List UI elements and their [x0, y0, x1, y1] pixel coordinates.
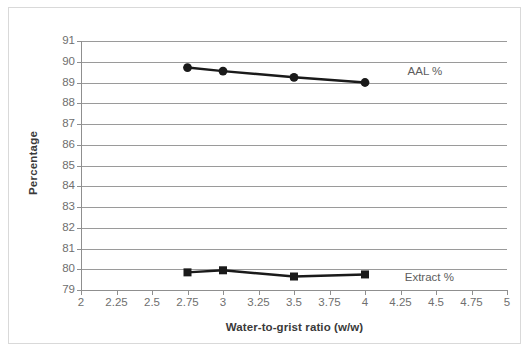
- data-point-marker: [219, 266, 227, 274]
- x-tick-mark: [294, 290, 295, 295]
- x-tick-mark: [259, 290, 260, 295]
- x-tick-mark: [152, 290, 153, 295]
- x-axis-title: Water-to-grist ratio (w/w): [81, 321, 508, 333]
- data-point-marker: [290, 273, 298, 281]
- x-axis-tick-labels: 22.252.52.7533.253.53.7544.254.54.755: [81, 297, 508, 315]
- data-point-marker: [183, 63, 192, 72]
- x-tick-mark: [81, 290, 82, 295]
- data-point-marker: [361, 270, 369, 278]
- x-tick-label: 2.5: [144, 297, 160, 309]
- y-tick-label: 90: [62, 56, 75, 68]
- plot-area: AAL %Extract %: [81, 41, 507, 290]
- x-tick-label: 4.25: [389, 297, 411, 309]
- series-label-extract: Extract %: [405, 272, 454, 284]
- y-tick-label: 79: [62, 284, 75, 296]
- y-tick-label: 88: [62, 97, 75, 109]
- chart-frame: Percentage 79808182838485868788899091 AA…: [8, 7, 521, 344]
- y-tick-label: 84: [62, 180, 75, 192]
- series-line-1: [188, 270, 366, 276]
- data-point-marker: [361, 78, 370, 87]
- x-tick-label: 2.25: [105, 297, 127, 309]
- y-tick-label: 81: [62, 243, 75, 255]
- data-point-marker: [184, 268, 192, 276]
- x-tick-label: 3.25: [247, 297, 269, 309]
- x-tick-mark: [330, 290, 331, 295]
- y-axis-title-text: Percentage: [27, 131, 39, 195]
- data-point-marker: [290, 73, 299, 82]
- x-tick-label: 4: [362, 297, 368, 309]
- x-tick-mark: [117, 290, 118, 295]
- x-tick-label: 4.75: [460, 297, 482, 309]
- x-tick-label: 3: [220, 297, 226, 309]
- y-axis-tick-labels: 79808182838485868788899091: [45, 41, 75, 290]
- x-tick-mark: [436, 290, 437, 295]
- series-layer: [81, 41, 507, 290]
- y-axis-title: Percentage: [23, 108, 43, 218]
- x-tick-label: 4.5: [428, 297, 444, 309]
- x-tick-label: 2.75: [176, 297, 198, 309]
- x-tick-mark: [507, 290, 508, 295]
- y-tick-label: 87: [62, 118, 75, 130]
- x-tick-mark: [365, 290, 366, 295]
- y-tick-label: 89: [62, 77, 75, 89]
- y-tick-label: 91: [62, 35, 75, 47]
- x-tick-mark: [401, 290, 402, 295]
- y-tick-label: 85: [62, 160, 75, 172]
- x-tick-label: 2: [78, 297, 84, 309]
- series-line-0: [188, 68, 366, 83]
- y-tick-label: 80: [62, 263, 75, 275]
- x-tick-mark: [223, 290, 224, 295]
- data-point-marker: [219, 67, 228, 76]
- x-tick-mark: [472, 290, 473, 295]
- x-tick-mark: [188, 290, 189, 295]
- series-label-aal: AAL %: [408, 66, 443, 78]
- x-tick-label: 5: [504, 297, 510, 309]
- y-tick-label: 86: [62, 139, 75, 151]
- chart-figure: Percentage 79808182838485868788899091 AA…: [0, 0, 529, 359]
- x-tick-label: 3.5: [286, 297, 302, 309]
- y-tick-label: 82: [62, 222, 75, 234]
- y-tick-label: 83: [62, 201, 75, 213]
- x-tick-label: 3.75: [318, 297, 340, 309]
